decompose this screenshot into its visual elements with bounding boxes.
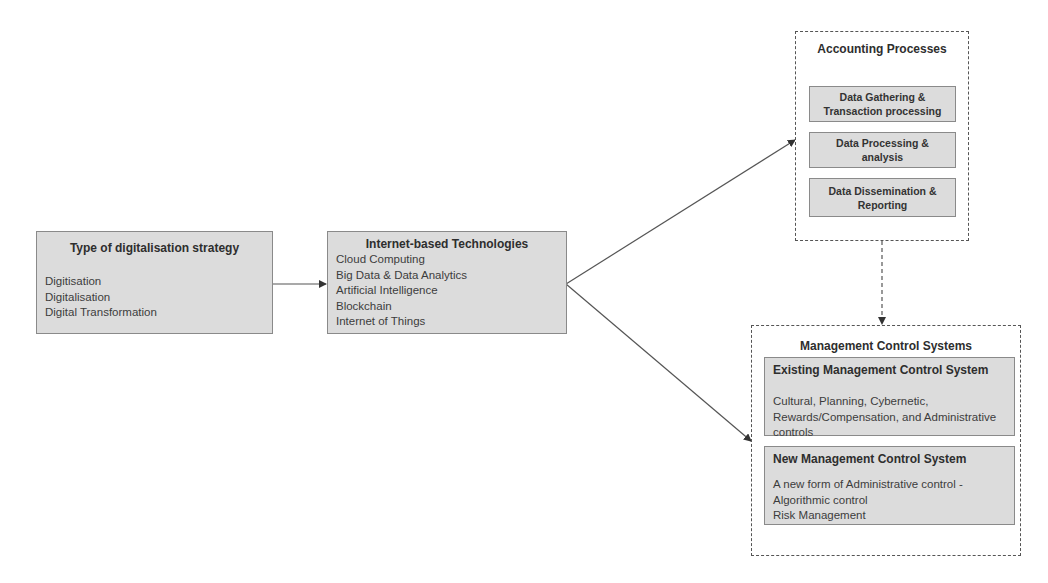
- existing-mcs-line: Rewards/Compensation, and Administrative: [773, 410, 996, 426]
- accounting-step-processing: Data Processing & analysis: [809, 132, 956, 168]
- existing-mcs-lines: Cultural, Planning, Cybernetic, Rewards/…: [773, 394, 996, 441]
- accounting-step-reporting: Data Dissemination & Reporting: [809, 178, 956, 217]
- accounting-processes-box: Accounting Processes Data Gathering & Tr…: [795, 31, 969, 241]
- arrow-tech-to-mcs: [566, 284, 751, 441]
- step-label: Data Dissemination &: [829, 184, 937, 198]
- existing-mcs-title: Existing Management Control System: [773, 363, 988, 377]
- step-label: analysis: [862, 150, 903, 164]
- technology-item: Blockchain: [336, 299, 467, 315]
- step-label: Transaction processing: [824, 104, 942, 118]
- new-mcs-title: New Management Control System: [773, 452, 966, 466]
- existing-mcs-line: Cultural, Planning, Cybernetic,: [773, 394, 996, 410]
- new-mcs-line: Algorithmic control: [773, 493, 963, 509]
- mcs-title: Management Control Systems: [752, 339, 1020, 353]
- arrow-tech-to-accounting: [566, 140, 795, 284]
- management-control-systems-box: Management Control Systems Existing Mana…: [751, 325, 1021, 556]
- technology-item: Artificial Intelligence: [336, 283, 467, 299]
- strategy-title: Type of digitalisation strategy: [37, 241, 272, 255]
- digitalisation-strategy-box: Type of digitalisation strategy Digitisa…: [36, 231, 273, 334]
- new-mcs-lines: A new form of Administrative control - A…: [773, 477, 963, 524]
- accounting-step-gathering: Data Gathering & Transaction processing: [809, 86, 956, 122]
- existing-mcs-line: controls: [773, 425, 996, 441]
- existing-mcs-box: Existing Management Control System Cultu…: [764, 357, 1015, 436]
- new-mcs-box: New Management Control System A new form…: [764, 446, 1015, 525]
- technology-item: Internet of Things: [336, 314, 467, 330]
- internet-technologies-box: Internet-based Technologies Cloud Comput…: [327, 231, 567, 334]
- step-label: Data Processing &: [836, 136, 929, 150]
- step-label: Data Gathering &: [840, 90, 926, 104]
- strategy-item: Digitisation: [45, 274, 157, 290]
- technology-item: Cloud Computing: [336, 252, 467, 268]
- technologies-list: Cloud Computing Big Data & Data Analytic…: [336, 252, 467, 330]
- strategy-list: Digitisation Digitalisation Digital Tran…: [45, 274, 157, 321]
- strategy-item: Digitalisation: [45, 290, 157, 306]
- new-mcs-line: A new form of Administrative control -: [773, 477, 963, 493]
- strategy-item: Digital Transformation: [45, 305, 157, 321]
- technology-item: Big Data & Data Analytics: [336, 268, 467, 284]
- technologies-title: Internet-based Technologies: [328, 237, 566, 251]
- step-label: Reporting: [858, 198, 908, 212]
- new-mcs-line: Risk Management: [773, 508, 963, 524]
- accounting-title: Accounting Processes: [796, 42, 968, 56]
